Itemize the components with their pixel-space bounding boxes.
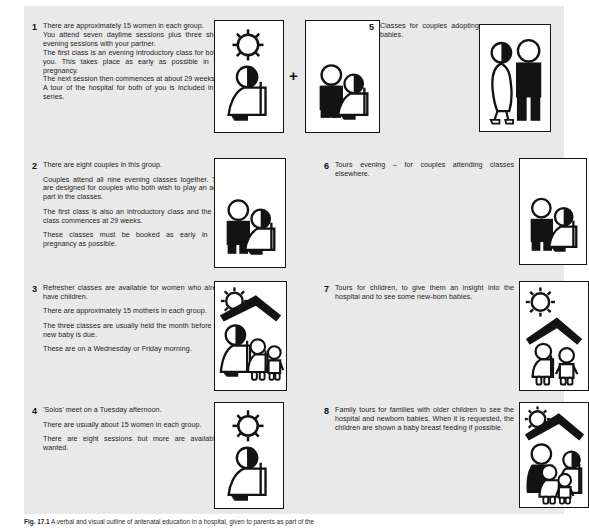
entry-number: 4 xyxy=(32,406,43,417)
entry-number: 5 xyxy=(369,22,380,33)
caption-text: A verbal and visual outline of antenatal… xyxy=(51,518,314,525)
entry-paragraph: Tours for children, to give them an insi… xyxy=(335,284,514,302)
toddler-figure xyxy=(556,474,573,504)
entry-paragraph: A tour of the hospital for both of you i… xyxy=(43,84,228,102)
entry-text: 'Solos' meet on a Tuesday afternoon. The… xyxy=(43,406,228,453)
entry-text: Family tours for families with older chi… xyxy=(335,406,514,433)
moon-icon xyxy=(231,167,244,193)
sun-icon xyxy=(232,410,263,441)
entry-number: 1 xyxy=(32,22,43,33)
entry-3: 3 Refresher classes are available for wo… xyxy=(32,284,228,354)
child-figure xyxy=(539,465,558,503)
illustration-sun-house-mother-and-children xyxy=(214,281,287,391)
entry-number: 6 xyxy=(324,161,335,172)
entry-text: Classes for couples adopting babies. xyxy=(380,22,479,40)
entry-paragraph: The first class is also an introductory … xyxy=(43,208,228,226)
illustration-sun-house-two-children xyxy=(519,281,589,391)
sun-icon xyxy=(526,287,555,316)
entry-6: 6 Tours evening – for couples attending … xyxy=(324,161,514,179)
entry-paragraph: The three classes are usually held the m… xyxy=(43,322,228,340)
entry-8: 8 Family tours for families with older c… xyxy=(324,406,514,433)
entry-1: 1 There are approximately 15 women in ea… xyxy=(32,22,228,102)
entry-4: 4 'Solos' meet on a Tuesday afternoon. T… xyxy=(32,406,228,453)
entry-paragraph: The next session then commences at about… xyxy=(43,75,228,84)
toddler-figure xyxy=(266,346,284,380)
illustration-moon-and-couple xyxy=(214,158,286,268)
entry-number: 3 xyxy=(32,284,43,295)
entry-paragraph: The first class is an evening introducto… xyxy=(43,49,228,76)
entry-number: 8 xyxy=(324,406,335,417)
entry-text: Tours evening – for couples attending cl… xyxy=(335,161,514,179)
entry-paragraph: Family tours for families with older chi… xyxy=(335,406,514,433)
entry-paragraph: There are eight sessions but more are av… xyxy=(43,435,228,453)
mother-figure xyxy=(221,325,250,377)
entry-paragraph: There are approximately 15 women in each… xyxy=(43,22,228,31)
entry-paragraph: You attend seven daytime sessions plus t… xyxy=(43,31,228,49)
entry-text: There are approximately 15 women in each… xyxy=(43,22,228,102)
figure-caption: Fig. 17.1 A verbal and visual outline of… xyxy=(24,518,564,526)
girl-figure xyxy=(533,344,553,385)
entry-text: Tours for children, to give them an insi… xyxy=(335,284,514,302)
figure-plate: 1 There are approximately 15 women in ea… xyxy=(24,6,564,514)
entry-2: 2 There are eight couples in this group.… xyxy=(32,161,228,249)
entry-paragraph: Tours evening – for couples attending cl… xyxy=(335,161,514,179)
entry-number: 7 xyxy=(324,284,335,295)
illustration-sun-house-family xyxy=(519,402,589,508)
entry-paragraph: There are eight couples in this group. xyxy=(43,161,228,170)
plus-symbol: + xyxy=(289,68,298,83)
boy-figure xyxy=(556,348,577,384)
entry-7: 7 Tours for children, to give them an in… xyxy=(324,284,514,302)
entry-paragraph: Classes for couples adopting babies. xyxy=(380,22,479,40)
entry-paragraph: Couples attend all nine evening classes … xyxy=(43,176,228,203)
entry-paragraph: 'Solos' meet on a Tuesday afternoon. xyxy=(43,406,228,415)
moon-icon xyxy=(535,166,548,191)
child-figure xyxy=(248,339,267,379)
pregnant-woman-figure xyxy=(549,208,576,252)
pregnant-woman-figure xyxy=(229,67,266,121)
entry-paragraph: Refresher classes are available for wome… xyxy=(43,284,228,302)
sun-icon xyxy=(232,29,263,60)
entry-text: There are eight couples in this group. C… xyxy=(43,161,228,249)
entry-paragraph: These classes must be booked as early in… xyxy=(43,231,228,249)
illustration-sun-and-pregnant-woman xyxy=(214,20,284,133)
moon-icon xyxy=(324,31,338,58)
entry-paragraph: There are approximately 15 mothers in ea… xyxy=(43,307,228,316)
entry-paragraph: These are on a Wednesday or Friday morni… xyxy=(43,345,228,354)
entry-text: Refresher classes are available for wome… xyxy=(43,284,228,354)
woman-figure xyxy=(491,43,513,124)
entry-5: 5 Classes for couples adopting babies. xyxy=(369,22,479,40)
caption-label: Fig. 17.1 xyxy=(24,518,50,525)
illustration-adopting-couple xyxy=(479,24,551,132)
entry-paragraph: There are usually about 15 women in each… xyxy=(43,421,228,430)
illustration-sun-and-pregnant-woman xyxy=(214,402,284,509)
illustration-moon-and-couple xyxy=(519,158,587,265)
entry-number: 2 xyxy=(32,161,43,172)
house-roof-icon xyxy=(526,318,582,345)
pregnant-woman-figure xyxy=(229,448,266,501)
man-figure xyxy=(516,40,541,121)
